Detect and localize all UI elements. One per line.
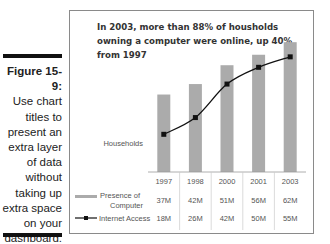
presence-value: 56M [251, 196, 266, 205]
internet-value: 42M [220, 214, 235, 223]
bar-2003 [284, 42, 297, 172]
internet-value: 26M [188, 214, 203, 223]
legend-label-presence: Presence of [100, 191, 141, 200]
legend-label-presence-2: Computer [110, 201, 143, 210]
bar-1998 [189, 84, 202, 172]
x-tick-label: 1997 [155, 177, 172, 186]
internet-value: 18M [157, 214, 172, 223]
marker-2003 [288, 54, 293, 59]
internet-value: 50M [251, 214, 266, 223]
x-tick-label: 2003 [282, 177, 299, 186]
internet-value: 55M [283, 214, 298, 223]
bar-2001 [252, 55, 265, 172]
legend-label-internet: Internet Access [99, 214, 151, 223]
presence-value: 51M [220, 196, 235, 205]
marker-1998 [193, 115, 198, 120]
marker-2001 [256, 65, 261, 70]
y-axis-label: Households [103, 139, 143, 148]
chart-plot: 1997199820002001200337M42M51M56M62M18M26… [0, 0, 330, 244]
data-table: 1997199820002001200337M42M51M56M62M18M26… [75, 172, 306, 230]
presence-value: 37M [157, 196, 172, 205]
presence-value: 62M [283, 196, 298, 205]
presence-value: 42M [188, 196, 203, 205]
legend-bar-swatch [75, 195, 97, 198]
x-tick-label: 2001 [250, 177, 267, 186]
marker-1997 [161, 132, 166, 137]
x-tick-label: 2000 [219, 177, 236, 186]
legend-line-marker [84, 216, 88, 220]
x-tick-label: 1998 [187, 177, 204, 186]
marker-2000 [225, 82, 230, 87]
